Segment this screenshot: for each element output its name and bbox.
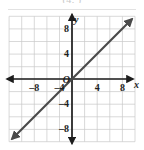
- ytick-label-neg4: –4: [59, 99, 69, 109]
- ytick-label-8: 8: [64, 24, 69, 34]
- graph-canvas: [0, 0, 144, 150]
- ytick-label-4: 4: [64, 49, 69, 59]
- xtick-label-8: 8: [120, 83, 125, 93]
- x-axis-label: x: [134, 80, 139, 90]
- xtick-label-neg8: –8: [29, 83, 39, 93]
- xtick-label-4: 4: [95, 83, 100, 93]
- ytick-label-neg8: –8: [59, 124, 69, 134]
- y-axis-label: y: [74, 15, 78, 25]
- xtick-label-neg4: –4: [55, 83, 65, 93]
- origin-label: O: [63, 75, 70, 85]
- coordinate-plane-figure: (4, ): [0, 0, 144, 150]
